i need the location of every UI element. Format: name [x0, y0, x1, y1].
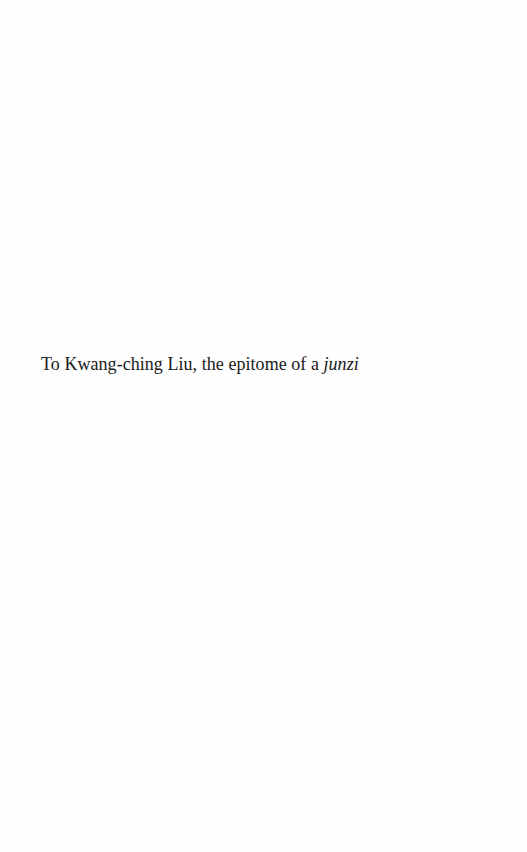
dedication-line: To Kwang-ching Liu, the epitome of a jun…: [41, 354, 359, 375]
dedication-italic-term: junzi: [324, 354, 359, 374]
dedication-text: To Kwang-ching Liu, the epitome of a: [41, 354, 324, 374]
book-page: To Kwang-ching Liu, the epitome of a jun…: [0, 0, 527, 852]
